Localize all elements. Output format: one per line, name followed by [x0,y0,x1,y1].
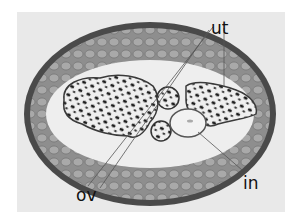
label-uterus: ut [211,18,229,38]
micrograph-figure: ut ov in [0,0,300,224]
ovary-section-lower [151,121,171,141]
intestine [170,109,206,137]
label-intestine: in [243,173,259,193]
intestine-lumen [187,120,193,123]
ovary-section-upper [157,87,179,109]
label-ovary: ov [76,185,96,205]
